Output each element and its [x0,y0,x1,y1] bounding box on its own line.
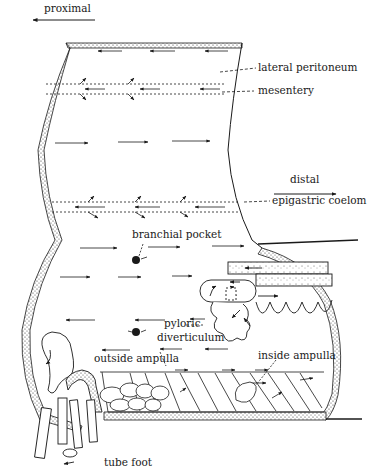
label-distal: distal [290,174,319,185]
branchial-pocket [132,244,147,264]
pyloric-caecum [200,262,332,341]
epigastric-coelom-channel [52,196,240,218]
label-proximal: proximal [44,3,91,14]
mesentery-upper [46,78,226,100]
label-outside-ampulla: outside ampulla [94,353,179,364]
label-inside-ampulla: inside ampulla [258,350,336,361]
label-pyloric: pyloric [164,318,201,329]
label-diverticulum: diverticulum [157,332,225,343]
pyloric-blob [128,328,146,336]
lateral-peritoneum-edge [228,43,262,248]
label-lateral-peritoneum: lateral peritoneum [258,62,358,73]
label-tube-foot: tube foot [104,457,152,468]
tube-foot [35,332,102,464]
flow-arrows-distal [55,141,210,143]
label-epigastric-coelom: epigastric coelom [272,195,367,206]
label-branchial-pocket: branchial pocket [132,229,221,240]
label-mesentery: mesentery [258,85,314,96]
